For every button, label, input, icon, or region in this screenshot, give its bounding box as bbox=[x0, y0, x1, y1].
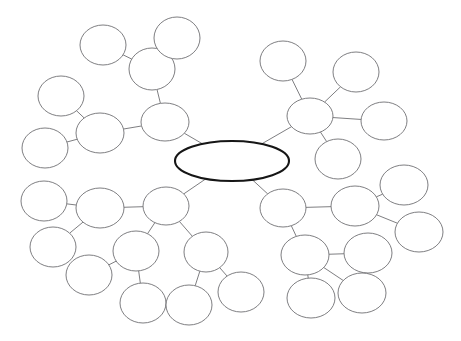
node-shape[interactable] bbox=[21, 181, 67, 221]
connector-line bbox=[324, 267, 344, 280]
connector-line bbox=[67, 139, 77, 142]
connector-line bbox=[320, 132, 326, 142]
connector-line bbox=[376, 194, 382, 197]
connector-line bbox=[148, 223, 155, 234]
connector-line bbox=[123, 55, 132, 59]
node-shape[interactable] bbox=[113, 231, 159, 271]
leaf-node[interactable] bbox=[21, 181, 67, 221]
connector-line bbox=[333, 118, 361, 120]
connector-line bbox=[184, 133, 202, 144]
sub-topic-node[interactable] bbox=[331, 186, 379, 226]
leaf-node[interactable] bbox=[315, 139, 361, 179]
node-shape[interactable] bbox=[22, 128, 68, 168]
connector-line bbox=[124, 207, 143, 208]
branch-hub-node[interactable] bbox=[260, 189, 306, 227]
connector-line bbox=[124, 126, 142, 129]
node-shape[interactable] bbox=[315, 139, 361, 179]
node-shape[interactable] bbox=[361, 102, 407, 140]
node-shape[interactable] bbox=[331, 186, 379, 226]
node-shape[interactable] bbox=[395, 212, 443, 252]
connector-line bbox=[195, 271, 200, 286]
node-shape[interactable] bbox=[76, 188, 124, 228]
node-shape[interactable] bbox=[143, 187, 189, 225]
node-shape[interactable] bbox=[287, 98, 333, 134]
leaf-node[interactable] bbox=[287, 278, 335, 318]
sub-topic-node[interactable] bbox=[76, 113, 124, 153]
leaf-node[interactable] bbox=[80, 25, 126, 65]
connector-line bbox=[262, 127, 292, 144]
connector-line bbox=[252, 180, 267, 194]
branch-hub-node[interactable] bbox=[287, 98, 333, 134]
concept-map-diagram bbox=[0, 0, 461, 341]
leaf-node[interactable] bbox=[344, 233, 392, 273]
leaf-node[interactable] bbox=[361, 102, 407, 140]
node-shape[interactable] bbox=[38, 76, 84, 116]
sub-topic-node[interactable] bbox=[281, 235, 329, 275]
connector-line bbox=[306, 207, 331, 208]
leaf-node[interactable] bbox=[260, 41, 306, 81]
leaf-node[interactable] bbox=[333, 52, 379, 92]
leaf-node[interactable] bbox=[218, 272, 264, 312]
connector-line bbox=[77, 111, 85, 118]
leaf-node[interactable] bbox=[154, 17, 200, 59]
connector-line bbox=[292, 79, 302, 99]
connector-line bbox=[377, 215, 398, 223]
node-shape[interactable] bbox=[80, 25, 126, 65]
leaf-node[interactable] bbox=[38, 76, 84, 116]
node-shape[interactable] bbox=[166, 285, 212, 325]
connector-line bbox=[70, 222, 83, 233]
leaf-node[interactable] bbox=[66, 255, 112, 295]
sub-topic-node[interactable] bbox=[113, 231, 159, 271]
node-shape[interactable] bbox=[76, 113, 124, 153]
branch-hub-node[interactable] bbox=[141, 103, 189, 141]
concept-map-canvas bbox=[0, 0, 461, 341]
node-shape[interactable] bbox=[281, 235, 329, 275]
node-layer bbox=[21, 17, 443, 325]
leaf-node[interactable] bbox=[166, 285, 212, 325]
node-shape[interactable] bbox=[120, 283, 166, 323]
leaf-node[interactable] bbox=[30, 227, 76, 267]
node-shape[interactable] bbox=[338, 273, 386, 313]
node-shape[interactable] bbox=[287, 278, 335, 318]
node-shape[interactable] bbox=[218, 272, 264, 312]
node-shape[interactable] bbox=[154, 17, 200, 59]
connector-line bbox=[179, 221, 192, 236]
connector-line bbox=[157, 89, 160, 103]
connector-line bbox=[139, 271, 141, 283]
connector-line bbox=[109, 261, 116, 265]
branch-hub-node[interactable] bbox=[143, 187, 189, 225]
connector-line bbox=[291, 226, 296, 237]
node-shape[interactable] bbox=[260, 189, 306, 227]
central-topic-node[interactable] bbox=[175, 141, 289, 181]
leaf-node[interactable] bbox=[338, 273, 386, 313]
node-shape[interactable] bbox=[333, 52, 379, 92]
node-shape[interactable] bbox=[184, 232, 228, 272]
node-shape[interactable] bbox=[344, 233, 392, 273]
node-shape[interactable] bbox=[141, 103, 189, 141]
leaf-node[interactable] bbox=[380, 165, 428, 205]
node-shape[interactable] bbox=[260, 41, 306, 81]
connector-line bbox=[325, 87, 341, 102]
connector-line bbox=[184, 179, 206, 194]
connector-line bbox=[220, 268, 227, 276]
sub-topic-node[interactable] bbox=[184, 232, 228, 272]
node-shape[interactable] bbox=[380, 165, 428, 205]
leaf-node[interactable] bbox=[22, 128, 68, 168]
leaf-node[interactable] bbox=[120, 283, 166, 323]
node-shape[interactable] bbox=[175, 141, 289, 181]
connector-line bbox=[67, 204, 77, 205]
sub-topic-node[interactable] bbox=[76, 188, 124, 228]
node-shape[interactable] bbox=[30, 227, 76, 267]
leaf-node[interactable] bbox=[395, 212, 443, 252]
node-shape[interactable] bbox=[66, 255, 112, 295]
